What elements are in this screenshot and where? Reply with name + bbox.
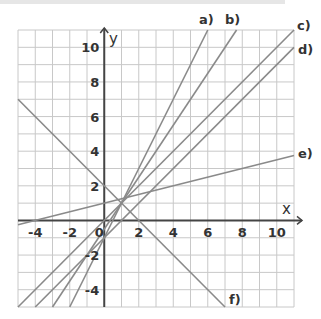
x-tick-label: 8: [238, 225, 247, 240]
y-tick-label: -4: [85, 283, 99, 298]
x-tick-label: 4: [169, 225, 178, 240]
x-tick-label: 2: [134, 225, 143, 240]
coordinate-plane-chart: -4-20246810-4-2246810 x y a) b) c) d) e)…: [0, 0, 321, 319]
label-d: d): [298, 42, 313, 57]
y-tick-label: -2: [85, 248, 99, 263]
series-line-d: [35, 47, 294, 307]
x-tick-label: 6: [203, 225, 212, 240]
y-tick-label: 6: [90, 110, 99, 125]
x-tick-label: -2: [63, 225, 77, 240]
x-tick-label: 10: [268, 225, 286, 240]
y-axis-label: y: [109, 30, 118, 48]
label-a: a): [199, 12, 214, 27]
y-tick-label: 8: [90, 75, 99, 90]
x-tick-label: 0: [95, 225, 104, 240]
x-axis-label: x: [282, 200, 291, 218]
label-b: b): [225, 12, 240, 27]
label-c: c): [297, 18, 311, 33]
y-tick-label: 4: [90, 144, 99, 159]
label-e: e): [298, 146, 313, 161]
y-tick-label: 2: [90, 179, 99, 194]
label-f: f): [229, 292, 241, 307]
x-tick-label: -4: [28, 225, 42, 240]
y-tick-label: 10: [81, 40, 99, 55]
